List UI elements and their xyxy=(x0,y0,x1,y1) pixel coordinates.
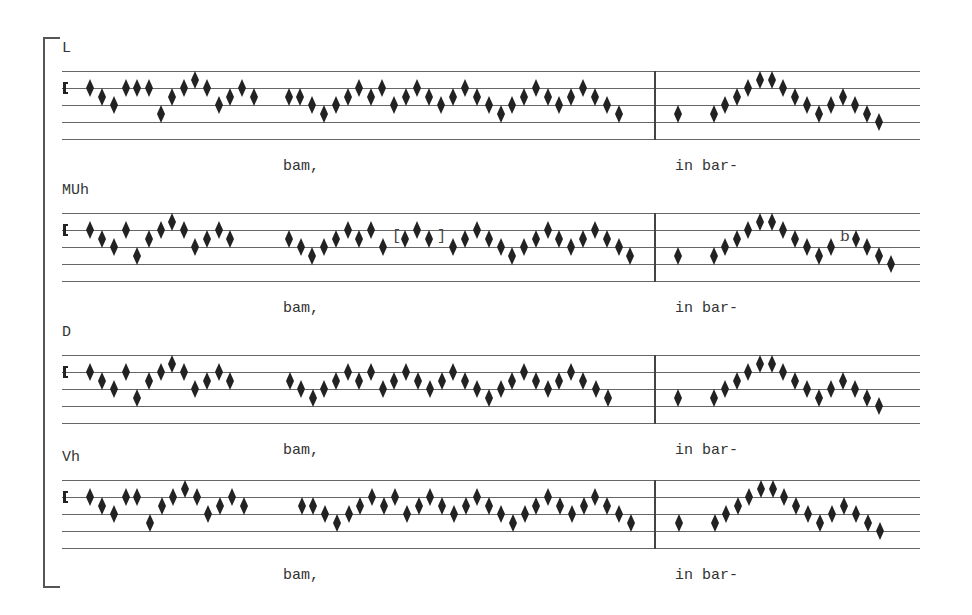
voice-label: Vh xyxy=(62,449,80,466)
staff-line xyxy=(62,122,920,123)
lyric-syllable: bam, xyxy=(283,442,319,459)
editorial-bracket: [ xyxy=(392,228,401,245)
lyric-syllable: in bar- xyxy=(675,158,738,175)
voice-label: MUh xyxy=(62,182,89,199)
staff-line xyxy=(62,264,920,265)
lyric-syllable: in bar- xyxy=(675,300,738,317)
voice-label: L xyxy=(62,40,71,57)
editorial-bracket: ] xyxy=(437,228,446,245)
c-clef-icon xyxy=(63,366,68,378)
staff-line xyxy=(62,531,920,532)
staff-line xyxy=(62,213,920,214)
c-clef-icon xyxy=(63,491,68,503)
staff-line xyxy=(62,281,920,282)
system-bracket-top xyxy=(43,37,60,39)
lyric-syllable: in bar- xyxy=(675,567,738,584)
c-clef-icon xyxy=(63,224,68,236)
barline xyxy=(654,355,656,424)
staff-line xyxy=(62,480,920,481)
barline xyxy=(654,213,656,282)
lyric-syllable: in bar- xyxy=(675,442,738,459)
barline xyxy=(654,71,656,140)
staff-line xyxy=(62,355,920,356)
lyric-syllable: bam, xyxy=(283,567,319,584)
staff-line xyxy=(62,423,920,424)
lyric-syllable: bam, xyxy=(283,300,319,317)
voice-label: D xyxy=(62,324,71,341)
flat-icon: b xyxy=(840,227,850,245)
barline xyxy=(654,480,656,549)
staff-line xyxy=(62,139,920,140)
system-bracket-bottom xyxy=(43,586,60,588)
lyric-syllable: bam, xyxy=(283,158,319,175)
staff-line xyxy=(62,548,920,549)
system-bracket xyxy=(43,37,45,588)
c-clef-icon xyxy=(63,82,68,94)
